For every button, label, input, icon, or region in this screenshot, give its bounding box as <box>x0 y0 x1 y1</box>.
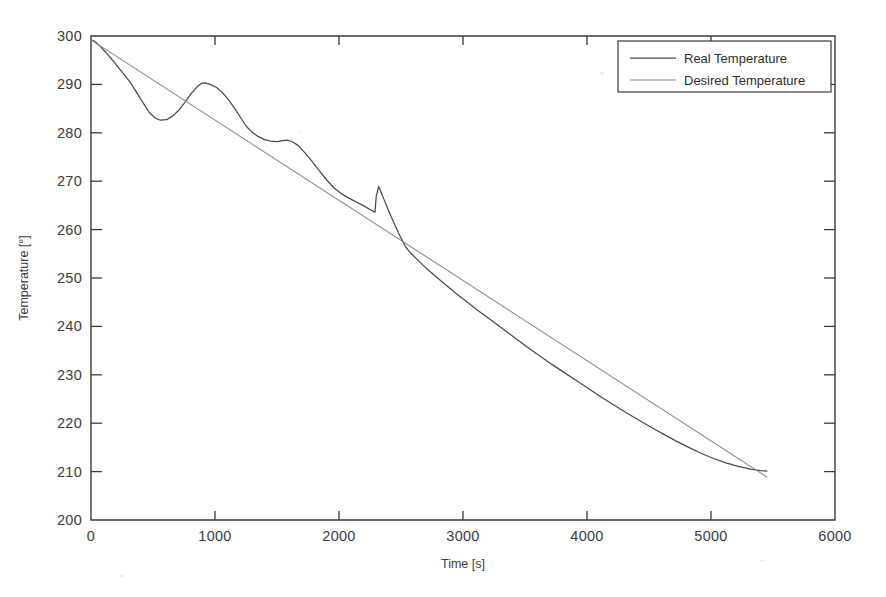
y-tick-label: 230 <box>57 367 82 383</box>
y-tick-label: 300 <box>57 28 82 44</box>
y-tick-label: 260 <box>57 222 82 238</box>
y-tick-label: 270 <box>57 173 82 189</box>
y-tick-label: 200 <box>57 512 82 528</box>
y-tick-label: 250 <box>57 270 82 286</box>
x-tick-label: 1000 <box>198 528 231 544</box>
y-tick-label: 280 <box>57 125 82 141</box>
x-tick-label: 4000 <box>570 528 603 544</box>
y-tick-label: 220 <box>57 415 82 431</box>
temperature-line-chart: 0100020003000400050006000 20021022023024… <box>0 0 886 597</box>
x-tick-label: 5000 <box>694 528 727 544</box>
chart-legend[interactable]: Real TemperatureDesired Temperature <box>618 41 831 92</box>
y-tick-label: 290 <box>57 76 82 92</box>
x-axis-title: Time [s] <box>441 557 485 571</box>
legend-label-real: Real Temperature <box>684 51 787 66</box>
y-tick-label: 210 <box>57 464 82 480</box>
chart-figure: 0100020003000400050006000 20021022023024… <box>0 0 886 597</box>
x-tick-label: 0 <box>87 528 95 544</box>
x-tick-label: 6000 <box>818 528 851 544</box>
x-tick-label: 2000 <box>322 528 355 544</box>
x-tick-label: 3000 <box>446 528 479 544</box>
y-axis-title: Temperature [°] <box>17 235 31 321</box>
legend-label-desired: Desired Temperature <box>684 73 805 88</box>
y-tick-label: 240 <box>57 318 82 334</box>
